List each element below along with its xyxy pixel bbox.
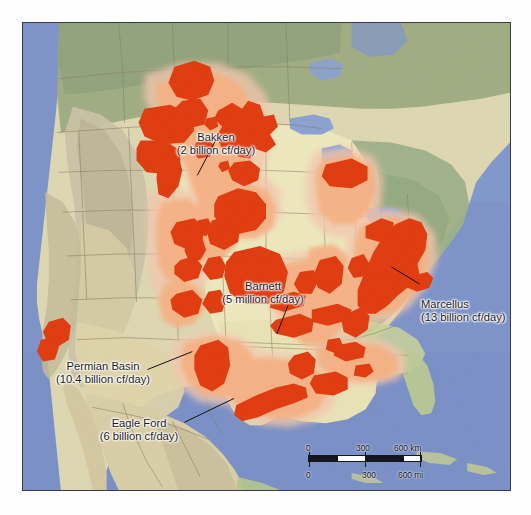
scale-km-max: 600 km: [394, 443, 421, 453]
scale-mi-max: 600 mi: [398, 470, 423, 480]
scale-bar-mi-row: 0 300 600 mi: [306, 470, 426, 481]
scale-bar: 0 300 600 km 0 300 600 mi: [306, 443, 426, 483]
map-grain-overlay: [23, 23, 510, 490]
scale-mi-zero: 0: [306, 470, 311, 480]
scale-bar-graphic: [308, 455, 422, 462]
scale-mi-mid: 300: [362, 470, 376, 480]
scale-bar-km-row: 0 300 600 km: [306, 443, 426, 454]
map-canvas: [23, 23, 510, 490]
map-layers: [23, 23, 510, 490]
map-frame: 0 300 600 km 0 300 600 mi Bakken (2 bill…: [22, 22, 511, 491]
scale-km-mid: 300: [356, 443, 370, 453]
map-page: 0 300 600 km 0 300 600 mi Bakken (2 bill…: [0, 0, 531, 515]
